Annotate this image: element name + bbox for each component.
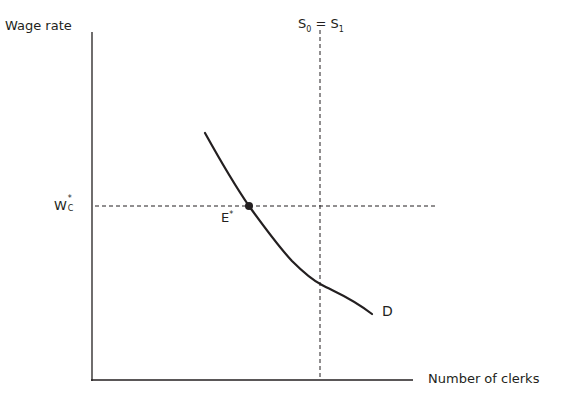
equilibrium-label-sup: *	[229, 210, 233, 219]
x-axis-label: Number of clerks	[428, 371, 539, 386]
equilibrium-label-main: E	[221, 210, 229, 225]
wage-label-sub: C	[68, 204, 74, 213]
equilibrium-label: E*	[221, 210, 233, 225]
demand-label-text: D	[382, 303, 393, 319]
x-axis-label-text: Number of clerks	[428, 371, 539, 386]
diagram-canvas	[0, 0, 566, 403]
equilibrium-point	[245, 202, 253, 210]
y-axis-label-text: Wage rate	[5, 18, 72, 33]
supply-s1: S	[331, 16, 339, 31]
supply-s0-sub: 0	[306, 25, 311, 34]
wage-label-main: W	[54, 198, 67, 213]
y-axis-label: Wage rate	[5, 18, 72, 33]
wage-label: W*C	[54, 198, 75, 213]
supply-equals: =	[316, 16, 327, 31]
wage-label-sup: *	[68, 194, 72, 203]
supply-label: S0 = S1	[298, 16, 344, 34]
supply-s1-sub: 1	[339, 25, 344, 34]
demand-label: D	[382, 303, 393, 319]
